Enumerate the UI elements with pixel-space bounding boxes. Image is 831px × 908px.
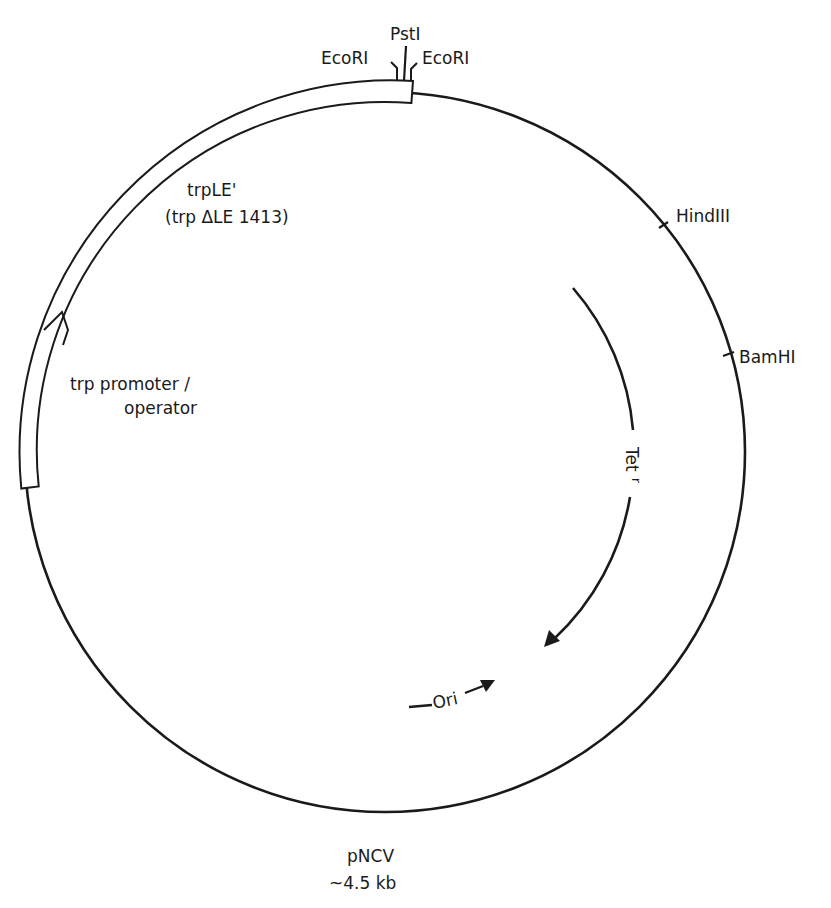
ori-line-right <box>465 686 483 693</box>
tet-arrowhead-icon <box>544 630 560 647</box>
tet-arc-lower <box>553 497 630 640</box>
bamhi-label: BamHI <box>739 347 795 367</box>
hindiii-label: HindIII <box>676 206 730 226</box>
promoter-label-line2: operator <box>124 398 197 418</box>
tet-label-group: Tet r <box>622 446 643 483</box>
trple-sublabel: (trp ΔLE 1413) <box>165 207 289 227</box>
psti-tick <box>404 46 406 81</box>
psti-label: PstI <box>390 24 421 44</box>
promoter-label-line1: trp promoter / <box>70 374 190 394</box>
ecori-left-tick <box>391 62 397 81</box>
tet-superscript: r <box>629 478 643 483</box>
ecori-right-tick <box>411 63 417 81</box>
plasmid-name: pNCV <box>347 846 394 866</box>
tet-label: Tet <box>622 446 642 472</box>
ecori-right-label: EcoRI <box>422 48 469 68</box>
top-sites <box>391 46 417 81</box>
plasmid-map: PstI EcoRI EcoRI HindIII BamHI trpLE' (t… <box>0 0 831 908</box>
tet-arc-upper <box>573 288 633 430</box>
ecori-left-label: EcoRI <box>321 48 368 68</box>
ori-line-left <box>409 705 432 707</box>
trple-label: trpLE' <box>187 180 236 200</box>
ori-label: Ori <box>431 688 460 713</box>
plasmid-size: ~4.5 kb <box>329 873 396 893</box>
trp-insert-box <box>20 80 413 488</box>
